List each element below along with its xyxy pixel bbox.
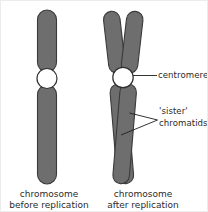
sister-chromatids-label-line2: chromatids xyxy=(159,118,208,129)
caption-left-line1: chromosome xyxy=(1,189,97,200)
right-centromere-icon xyxy=(113,67,133,87)
left-lower-arm xyxy=(38,85,57,184)
caption-left-line2: before replication xyxy=(1,200,97,211)
left-upper-arm xyxy=(38,10,57,72)
caption-right-line2: after replication xyxy=(95,200,191,211)
caption-right: chromosome after replication xyxy=(95,189,191,211)
chromatid-b-upper-arm xyxy=(120,10,143,73)
right-chromosome xyxy=(103,10,144,184)
caption-right-line1: chromosome xyxy=(95,189,191,200)
centromere-label: centromere xyxy=(158,70,208,81)
diagram-canvas: centromere 'sister' chromatids chromosom… xyxy=(0,0,208,212)
left-chromosome xyxy=(37,10,57,184)
caption-left: chromosome before replication xyxy=(1,189,97,211)
sister-chromatids-label-line1: 'sister' xyxy=(159,106,188,117)
left-centromere-icon xyxy=(37,69,57,89)
